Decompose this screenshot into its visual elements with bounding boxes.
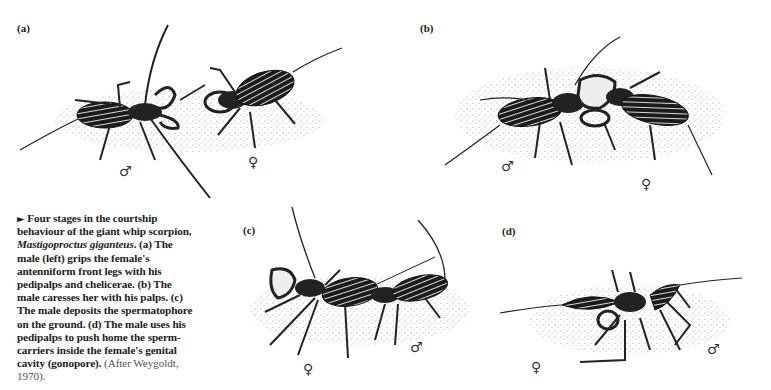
female-symbol-d: ♀ (531, 360, 541, 374)
caption-lead: Four stages in the courtship behaviour o… (17, 212, 192, 237)
whip-scorpion-illustration-c (200, 200, 500, 390)
caption-marker-icon: ► (17, 213, 25, 224)
male-symbol-d: ♂ (707, 342, 720, 356)
male-symbol-c: ♂ (410, 340, 423, 354)
female-symbol-c: ♀ (303, 362, 313, 376)
panel-a: (a) ♂ ♀ (0, 0, 400, 200)
whip-scorpion-illustration-a (0, 0, 400, 200)
panel-b: (b) ♂ ♀ (400, 0, 771, 200)
female-symbol-b: ♀ (641, 177, 651, 191)
male-symbol-a: ♂ (119, 164, 132, 178)
panel-d: (d) ♀ ♂ (500, 210, 771, 390)
male-symbol-b: ♂ (501, 159, 514, 173)
female-symbol-a: ♀ (248, 155, 258, 169)
figure-caption: ► Four stages in the courtship behaviour… (17, 212, 195, 384)
caption-body: . (a) The male (left) grips the female's… (17, 238, 192, 369)
caption-species: Mastigoproctus giganteus (17, 238, 134, 250)
whip-scorpion-illustration-b (400, 0, 771, 200)
panel-c: (c) ♀ ♂ (200, 200, 500, 390)
